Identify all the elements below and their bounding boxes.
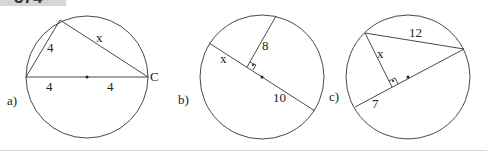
label-a-x: x	[96, 30, 103, 46]
label-c-x: x	[377, 46, 384, 62]
label-b-8: 8	[262, 38, 269, 54]
label-b-10: 10	[273, 90, 286, 106]
label-a-chord: 4	[47, 40, 54, 56]
label-a-diam-left: 4	[46, 79, 53, 95]
figure-b-label: b)	[178, 92, 189, 108]
label-c-12: 12	[409, 25, 422, 41]
label-b-x: x	[220, 51, 227, 67]
figure-c-label: c)	[329, 89, 339, 105]
point-label-c: C	[150, 69, 159, 85]
label-c-7: 7	[372, 96, 379, 112]
label-a-diam-right: 4	[107, 79, 114, 95]
bottom-divider	[0, 150, 487, 151]
figure-a-label: a)	[7, 93, 17, 109]
